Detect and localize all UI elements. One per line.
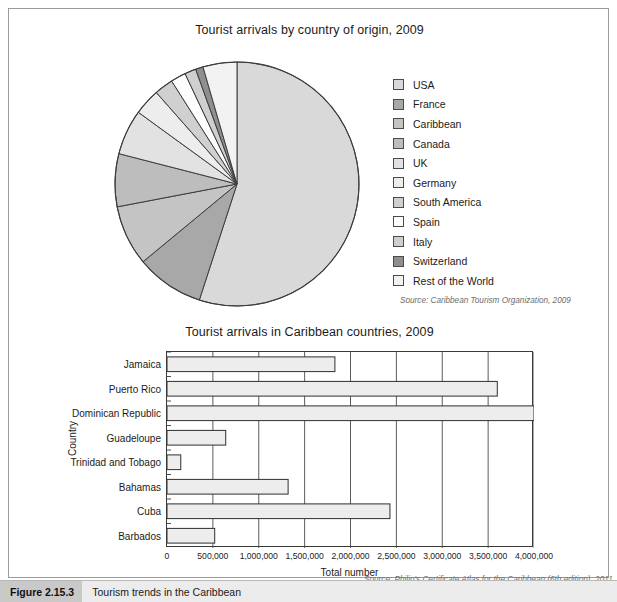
bar-y-axis-title: Country [67,421,78,456]
legend-item: Rest of the World [393,271,583,291]
legend-item-label: France [413,98,446,110]
legend-item-label: Spain [413,216,440,228]
legend-item: France [393,95,583,115]
legend-swatch-icon [393,275,404,286]
figure-caption-bar: Figure 2.15.3 Tourism trends in the Cari… [0,580,617,602]
legend-item-label: Germany [413,177,456,189]
pie-chart-graphic [112,59,362,309]
figure-number-tag: Figure 2.15.3 [0,581,82,602]
pie-slices-svg [112,59,362,309]
bar-x-tick-label: 500,000 [197,551,228,561]
bar-rect [167,528,215,543]
bar-rect [167,479,288,494]
bar-rect [167,381,497,396]
legend-item: Switzerland [393,251,583,271]
pie-source-note: Source: Caribbean Tourism Organization, … [400,296,571,305]
bar-chart-plot-area: JamaicaPuerto RicoDominican RepublicGuad… [166,351,533,547]
legend-swatch-icon [393,79,404,90]
legend-item: UK [393,153,583,173]
legend-item-label: USA [413,79,435,91]
pie-chart-panel: Tourist arrivals by country of origin, 2… [9,9,610,309]
bar-x-tick-label: 4,000,000 [515,551,553,561]
pie-chart-legend: USAFranceCaribbeanCanadaUKGermanySouth A… [393,75,583,291]
legend-item: Spain [393,212,583,232]
legend-item-label: Switzerland [413,255,467,267]
bar-rect [167,430,226,445]
bar-x-tick-label: 2,500,000 [377,551,415,561]
legend-swatch-icon [393,236,404,247]
bar-category-label: Puerto Rico [109,383,161,394]
legend-item: USA [393,75,583,95]
bar-x-tick-label: 3,000,000 [423,551,461,561]
bar-chart-panel: Tourist arrivals in Caribbean countries,… [9,309,610,579]
legend-swatch-icon [393,118,404,129]
legend-swatch-icon [393,177,404,188]
bar-bars-svg [167,352,534,548]
bar-x-tick-label: 3,500,000 [469,551,507,561]
legend-swatch-icon [393,138,404,149]
legend-swatch-icon [393,99,404,110]
figure-page: Tourist arrivals by country of origin, 2… [0,0,617,602]
bar-category-label: Bahamas [119,481,161,492]
legend-item: South America [393,193,583,213]
legend-item-label: Caribbean [413,118,461,130]
bar-x-tick-label: 1,000,000 [240,551,278,561]
legend-item-label: UK [413,157,428,169]
bar-category-label: Guadeloupe [107,432,162,443]
bar-rect [167,455,181,470]
bar-rect [167,406,534,421]
legend-item: Canada [393,134,583,154]
bar-chart-title: Tourist arrivals in Caribbean countries,… [9,325,610,339]
bar-x-tick-label: 2,000,000 [331,551,369,561]
legend-swatch-icon [393,158,404,169]
legend-item-label: Canada [413,138,450,150]
figure-frame: Tourist arrivals by country of origin, 2… [8,8,609,578]
legend-swatch-icon [393,216,404,227]
bar-rect [167,357,335,372]
legend-swatch-icon [393,256,404,267]
bar-x-tick-label: 0 [165,551,170,561]
legend-item: Germany [393,173,583,193]
legend-item: Caribbean [393,114,583,134]
bar-category-label: Trinidad and Tobago [70,457,161,468]
legend-item-label: South America [413,196,481,208]
legend-item-label: Italy [413,236,432,248]
legend-item: Italy [393,232,583,252]
pie-chart-title: Tourist arrivals by country of origin, 2… [9,23,610,37]
bar-rect [167,504,390,519]
bar-category-label: Cuba [137,506,161,517]
legend-swatch-icon [393,197,404,208]
bar-category-label: Barbados [118,530,161,541]
bar-x-tick-label: 1,500,000 [286,551,324,561]
bar-category-label: Dominican Republic [72,408,161,419]
bar-category-label: Jamaica [124,359,161,370]
figure-caption-text: Tourism trends in the Caribbean [82,581,617,602]
legend-item-label: Rest of the World [413,275,494,287]
